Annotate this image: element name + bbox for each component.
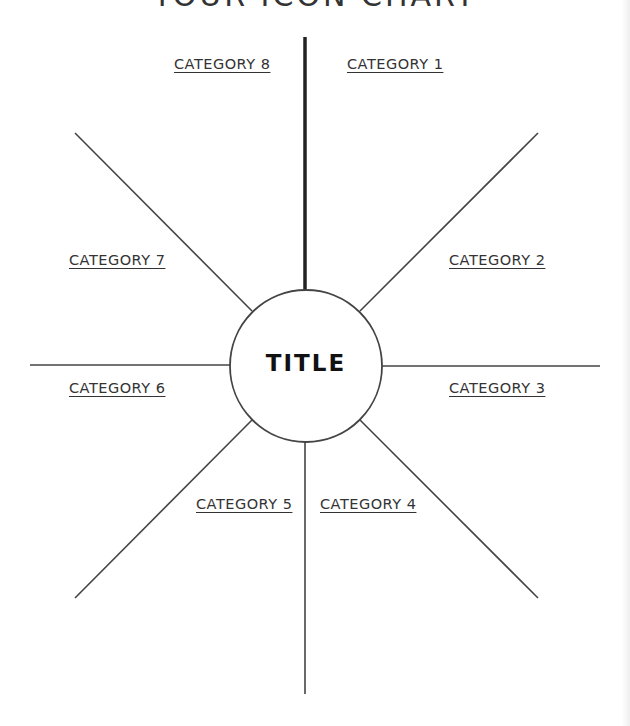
category-2-label: CATEGORY 2: [449, 252, 545, 268]
category-5-label: CATEGORY 5: [196, 496, 292, 512]
category-1-label: CATEGORY 1: [347, 56, 443, 72]
spoke-upper-right: [360, 133, 538, 311]
category-3-label: CATEGORY 3: [449, 380, 545, 396]
category-6-label: CATEGORY 6: [69, 380, 165, 396]
category-8-label: CATEGORY 8: [174, 56, 270, 72]
spoke-upper-left: [75, 133, 252, 311]
center-title: TITLE: [230, 350, 382, 376]
category-4-label: CATEGORY 4: [320, 496, 416, 512]
category-7-label: CATEGORY 7: [69, 252, 165, 268]
